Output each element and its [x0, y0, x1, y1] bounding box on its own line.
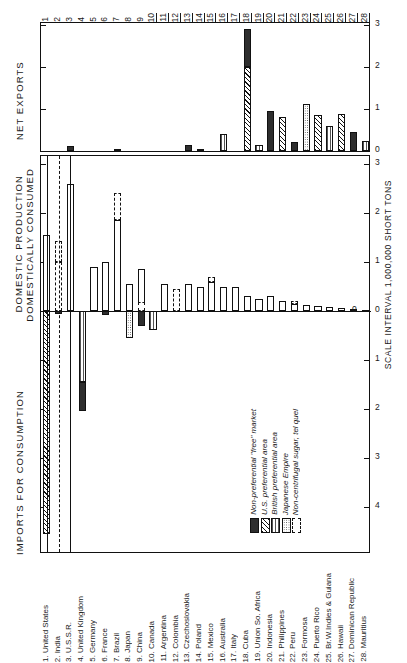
legend-label: Non-centrifugal sugar, tel quel	[291, 409, 300, 515]
non-centrifugal-sugar-bar	[114, 193, 121, 220]
axis-tick	[41, 151, 46, 152]
domestic-production-bar	[303, 305, 310, 311]
column-number: 20	[265, 13, 274, 22]
column-number: 11	[159, 13, 168, 22]
column-number: 15	[206, 13, 215, 22]
column-number: 26	[336, 13, 345, 22]
zero-axis-line	[41, 311, 371, 312]
country-key-item: 20. Indonesia	[265, 614, 274, 662]
net-exports-bar	[362, 141, 369, 152]
net-exports-bar	[338, 114, 345, 151]
country-key-item: 18. Cuba	[241, 630, 250, 662]
domestic-production-bar	[102, 262, 109, 311]
imports-bar	[138, 311, 145, 326]
axis-zero-label: 0	[375, 304, 380, 314]
domestic-production-bar	[197, 287, 204, 312]
axis-tick	[364, 25, 369, 26]
country-key-item: 22. Peru	[288, 632, 297, 662]
net-exports-panel	[40, 22, 370, 152]
net-exports-bar	[197, 149, 204, 151]
axis-tick-label: 4	[375, 500, 380, 510]
net-exports-bar	[326, 126, 333, 151]
legend-swatch	[282, 518, 291, 533]
country-key-item: 27. Dominican Republic	[347, 578, 356, 663]
country-key-item: 10. Canada	[147, 621, 156, 662]
net-exports-bar	[291, 142, 298, 151]
domestic-production-bar	[279, 301, 286, 311]
imports-bar	[126, 311, 133, 338]
axis-tick	[41, 109, 46, 110]
net-exports-bar	[255, 145, 262, 151]
axis-tick	[41, 67, 46, 68]
column-number: 13	[183, 13, 192, 22]
axis-tick	[364, 164, 369, 165]
axis-zero-label-inner: 0	[352, 304, 357, 314]
country-key: 1. United States2. India3. U.S.S.R.4. Un…	[8, 570, 407, 662]
imports-bar	[79, 382, 86, 411]
domestic-production-bar	[208, 282, 215, 311]
legend-swatch	[271, 518, 280, 533]
scale-interval-label: SCALE INTERVAL 1,000,000 SHORT TONS	[383, 180, 393, 369]
domestic-production-axis-title-line2: DOMESTICALLY CONSUMED	[24, 168, 35, 322]
axis-tick-label: 2	[375, 402, 380, 412]
column-number: 19	[254, 13, 263, 22]
axis-tick-label: 3	[375, 157, 380, 167]
country-key-item: 3. U.S.S.R.	[64, 622, 73, 662]
domestic-production-bar	[220, 287, 227, 312]
domestic-production-bar	[126, 284, 133, 311]
column-number: 22	[289, 13, 298, 22]
domestic-production-bar	[362, 310, 369, 312]
legend-label: Japanese Empire	[281, 453, 290, 515]
net-exports-bar	[220, 134, 227, 151]
country-key-item: 26. Hawaii	[336, 625, 345, 662]
country-key-item: 16. Australia	[218, 618, 227, 662]
country-key-item: 5. Germany	[88, 620, 97, 662]
axis-tick-label: 1	[375, 255, 380, 265]
axis-tick	[364, 213, 369, 214]
domestic-production-bar	[338, 308, 345, 311]
country-key-item: 1. United States	[41, 605, 50, 662]
country-key-item: 23. Formosa	[300, 617, 309, 662]
domestic-production-bar	[255, 299, 262, 311]
axis-tick	[41, 164, 46, 165]
axis-tick-label: 2	[375, 60, 380, 70]
domestic-production-bar	[232, 287, 239, 312]
domestic-production-bar	[291, 304, 298, 311]
axis-tick	[41, 213, 46, 214]
country-key-item: 28. Mauritius	[359, 616, 368, 662]
axis-tick	[41, 25, 46, 26]
country-key-item: 21. Philippines	[277, 610, 286, 662]
column-number: 10	[147, 13, 156, 22]
axis-tick-label: 2	[375, 206, 380, 216]
imports-axis-title: IMPORTS FOR CONSUMPTION	[14, 390, 25, 555]
domestic-production-bar	[114, 220, 121, 311]
net-exports-bar	[244, 67, 251, 151]
column-number: 14	[195, 13, 204, 22]
column-number: 25	[324, 13, 333, 22]
country-guide-line	[70, 156, 71, 552]
legend-label: U.S. preferential area	[260, 439, 269, 515]
axis-tick-label: 1	[375, 353, 380, 363]
domestic-production-bar	[314, 306, 321, 311]
column-number: 28	[360, 13, 369, 22]
axis-tick-label: 0	[375, 144, 380, 154]
country-key-item: 25. Br.W.Indies & Guiana	[324, 573, 333, 662]
net-exports-bar	[67, 146, 74, 151]
domestic-production-bar	[185, 284, 192, 311]
country-key-item: 14. Poland	[194, 624, 203, 662]
non-centrifugal-sugar-bar	[208, 277, 215, 282]
country-key-item: 4. United Kingdom	[76, 596, 85, 662]
country-key-item: 11. Argentina	[159, 615, 168, 662]
axis-tick-label: 1	[375, 102, 380, 112]
domestic-production-bar	[90, 267, 97, 311]
country-guide-line	[59, 156, 60, 552]
axis-tick	[364, 67, 369, 68]
domestic-production-bar	[161, 284, 168, 311]
column-number: 17	[230, 13, 239, 22]
column-number: 21	[277, 13, 286, 22]
country-key-item: 9. China	[135, 632, 144, 662]
domestic-production-bar	[267, 296, 274, 311]
country-guide-line	[47, 156, 48, 552]
axis-tick	[364, 262, 369, 263]
column-number: 27	[348, 13, 357, 22]
